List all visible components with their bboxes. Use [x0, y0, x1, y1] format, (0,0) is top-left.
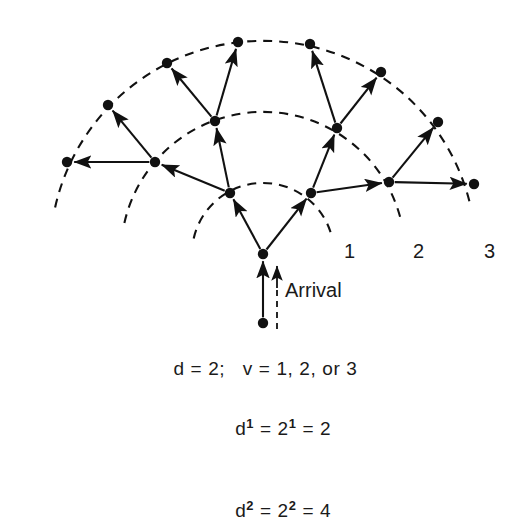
figure-container: Arrival 123 d = 2; v = 1, 2, or 3 d1 = 2…: [0, 0, 531, 527]
node-c0: [62, 157, 72, 167]
equation-line-1: d = 2; v = 1, 2, or 3: [0, 358, 531, 380]
node-c4: [305, 39, 315, 49]
branch-edge-b2-to-c5: [341, 78, 377, 124]
eq3-lhs-base: d: [235, 500, 246, 521]
node-inlet: [258, 318, 268, 328]
range-arcs-group: [55, 41, 471, 239]
node-c7: [469, 179, 479, 189]
branch-edge-b3-to-c6: [393, 128, 434, 178]
node-a2: [306, 188, 316, 198]
arc-label-1: 1: [344, 240, 355, 262]
branch-edge-a2-to-b2: [313, 135, 334, 188]
eq3-mid-base: 2: [278, 500, 289, 521]
branch-edge-b0-to-c1: [113, 111, 152, 158]
branch-edge-root-to-a2: [267, 199, 307, 250]
eq2-result: 2: [320, 418, 331, 439]
node-b1: [210, 116, 220, 126]
eq2-lhs-base: d: [235, 418, 246, 439]
eq2-mid-base: 2: [278, 418, 289, 439]
branch-edge-b3-to-c7: [395, 182, 467, 184]
node-c5: [376, 67, 386, 77]
node-root: [258, 249, 268, 259]
arc-label-2: 2: [413, 240, 424, 262]
eq2-sign-a: =: [254, 418, 277, 439]
node-a1: [225, 188, 235, 198]
eq2-sign-b: =: [297, 418, 320, 439]
node-b3: [384, 177, 394, 187]
eq3-lhs-exp: 2: [246, 498, 254, 513]
node-c2: [162, 58, 172, 68]
arrival-label: Arrival: [285, 279, 342, 301]
arrival-annotation: Arrival: [277, 266, 342, 329]
equations-block: d = 2; v = 1, 2, or 3 d1 = 21 = 2 d2 = 2…: [0, 352, 531, 527]
node-c1: [103, 100, 113, 110]
branch-edge-a1-to-b0: [162, 165, 225, 191]
equation-line-2: d1 = 21 = 2: [0, 396, 531, 462]
branch-edge-b2-to-c4: [312, 51, 335, 123]
eq2-mid-exp: 1: [289, 416, 297, 431]
branch-edge-a1-to-b1: [217, 128, 229, 187]
arc-labels-group: 123: [344, 240, 495, 262]
eq3-result: 4: [320, 500, 331, 521]
eq3-mid-exp: 2: [289, 498, 297, 513]
arc-label-3: 3: [484, 240, 495, 262]
equation-line-3: d2 = 22 = 4: [0, 478, 531, 527]
node-c6: [433, 117, 443, 127]
branch-edge-a2-to-b3: [317, 183, 382, 192]
eq2-lhs-exp: 1: [246, 416, 254, 431]
eq3-sign-b: =: [297, 500, 320, 521]
branch-edges-group: [74, 49, 467, 250]
branch-edge-b1-to-c2: [172, 69, 212, 117]
branching-diagram: Arrival 123: [0, 0, 531, 350]
branch-edge-b1-to-c3: [217, 49, 236, 116]
node-b0: [150, 157, 160, 167]
node-c3: [233, 37, 243, 47]
branch-edge-root-to-a1: [233, 199, 260, 249]
eq3-sign-a: =: [254, 500, 277, 521]
node-b2: [332, 123, 342, 133]
